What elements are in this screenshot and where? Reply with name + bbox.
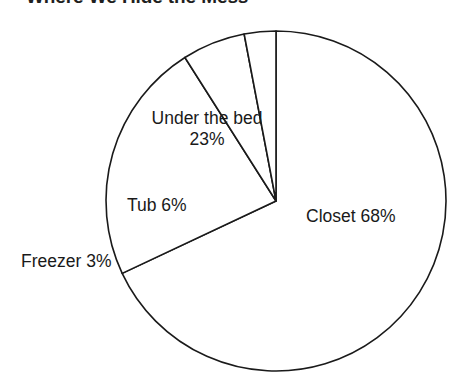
slice-label-freezer: Freezer 3% bbox=[21, 251, 111, 272]
pie-chart bbox=[0, 0, 449, 384]
slice-label-under-the-bed-name: Under the bed bbox=[152, 108, 263, 128]
slice-label-tub: Tub 6% bbox=[127, 195, 187, 216]
slice-label-under-the-bed: Under the bed23% bbox=[145, 108, 269, 150]
chart-canvas: Where We Hide the Mess Closet 68% Under … bbox=[0, 0, 449, 384]
slice-label-under-the-bed-percent: 23% bbox=[145, 129, 269, 150]
slice-label-closet: Closet 68% bbox=[306, 206, 396, 227]
